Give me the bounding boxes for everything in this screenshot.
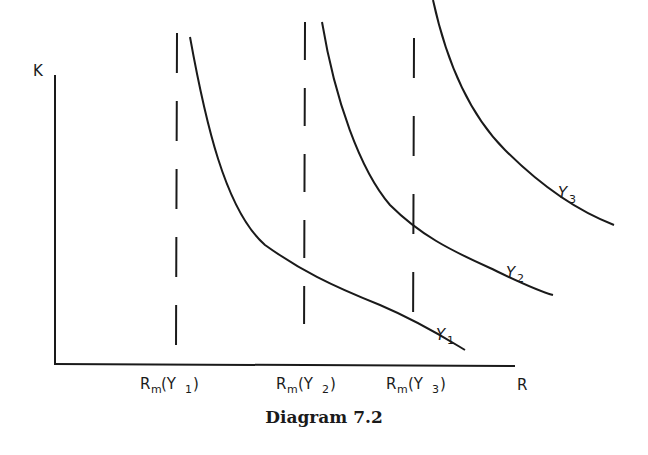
svg-text:Y: Y [436, 326, 447, 344]
svg-text:2: 2 [517, 272, 524, 285]
isoquant-diagram: K R Y 1 Y 2 Y 3 R m (Y 1 ) R m (Y 2 ) R … [0, 0, 648, 455]
dashed-line-rm-y3 [413, 38, 414, 350]
curve-label-y1: Y 1 [436, 326, 454, 347]
dashed-line-rm-y2 [304, 22, 305, 350]
y-axis-label: K [33, 62, 44, 80]
curve-label-y3: Y 3 [558, 184, 576, 206]
curve-label-y2: Y 2 [506, 264, 524, 285]
curve-y3 [433, 0, 614, 225]
x-axis-label: R [517, 376, 527, 394]
svg-text:R: R [140, 375, 150, 393]
svg-text:m: m [397, 383, 408, 396]
svg-text:Y: Y [558, 184, 569, 202]
svg-text:(Y: (Y [161, 375, 177, 393]
svg-text:1: 1 [185, 383, 192, 396]
svg-text:1: 1 [447, 334, 454, 347]
svg-text:(Y: (Y [408, 375, 424, 393]
curve-y1 [190, 37, 465, 350]
svg-text:3: 3 [432, 383, 439, 396]
x-tick-rm-y2: R m (Y 2 ) [276, 375, 336, 396]
svg-text:): ) [193, 375, 199, 393]
svg-text:2: 2 [322, 383, 329, 396]
svg-text:3: 3 [569, 193, 576, 206]
curve-y2 [322, 22, 553, 295]
diagram-caption: Diagram 7.2 [0, 407, 648, 427]
svg-text:): ) [440, 375, 446, 393]
x-tick-rm-y1: R m (Y 1 ) [140, 375, 199, 396]
dashed-line-rm-y1 [176, 33, 177, 350]
svg-text:(Y: (Y [298, 375, 314, 393]
svg-text:m: m [287, 383, 298, 396]
x-axis [54, 364, 515, 366]
svg-text:R: R [276, 375, 286, 393]
svg-text:): ) [330, 375, 336, 393]
svg-text:R: R [386, 375, 396, 393]
x-tick-rm-y3: R m (Y 3 ) [386, 375, 446, 396]
